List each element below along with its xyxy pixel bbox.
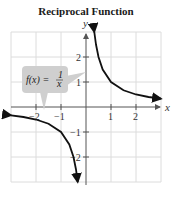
y-tick-label: −1: [70, 127, 81, 138]
callout-denominator: x: [56, 78, 62, 89]
x-tick-label: −1: [54, 111, 65, 122]
y-tick-label: 1: [76, 77, 81, 88]
callout-fx: f(x) =: [26, 74, 49, 86]
curve-branch-positive: [94, 32, 161, 99]
x-axis-label: x: [164, 101, 170, 113]
curve-branch-negative: [11, 115, 78, 182]
y-tick-label: 2: [76, 52, 81, 63]
x-tick-label: 1: [108, 111, 113, 122]
chart-plot: x y −2 −1 1 2 2 1 −1 −2 f(x) = 1 x: [0, 0, 178, 203]
x-tick-label: 2: [133, 111, 138, 122]
y-axis-label: y: [82, 17, 88, 29]
function-callout: f(x) = 1 x: [22, 66, 86, 110]
